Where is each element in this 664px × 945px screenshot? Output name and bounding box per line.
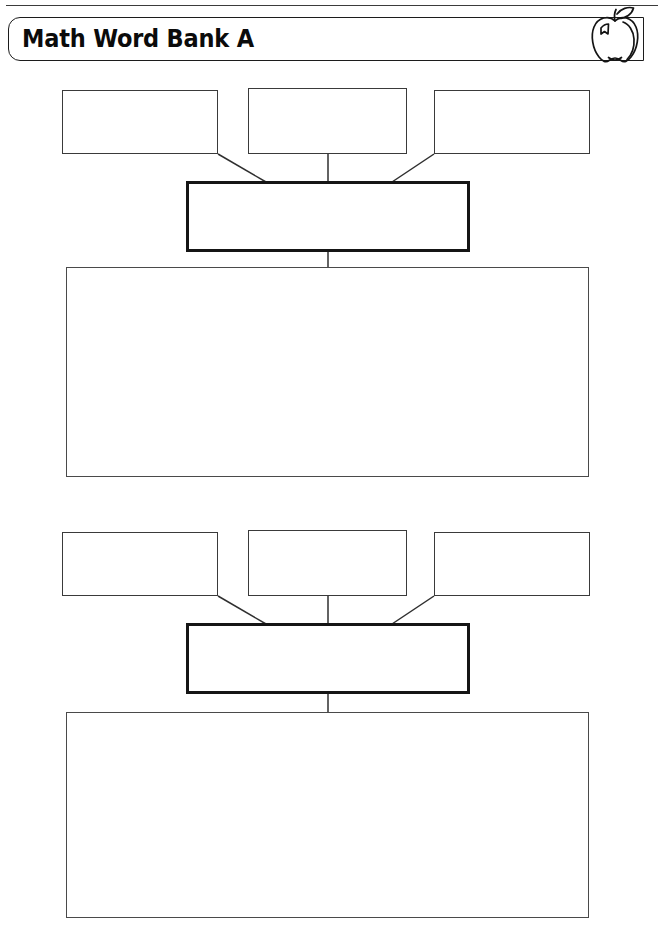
group2-main-box[interactable] <box>66 712 589 918</box>
top-rule-divider <box>6 5 658 6</box>
page-title: Math Word Bank A <box>22 18 254 60</box>
group1-top-box-1[interactable] <box>62 90 218 154</box>
group2-top-box-3[interactable] <box>434 532 590 596</box>
worksheet-page: Math Word Bank A <box>0 0 664 945</box>
group2-top-box-2[interactable] <box>248 530 407 596</box>
connector-g2-left <box>218 596 266 624</box>
connector-g1-right <box>392 154 434 182</box>
connector-g2-right <box>392 596 434 624</box>
connector-g1-left <box>218 154 266 182</box>
apple-icon <box>583 2 647 68</box>
group1-main-box[interactable] <box>66 267 589 477</box>
group1-top-box-3[interactable] <box>434 90 590 154</box>
group2-center-box[interactable] <box>186 623 470 694</box>
group2-top-box-1[interactable] <box>62 532 218 596</box>
group1-top-box-2[interactable] <box>248 88 407 154</box>
group1-center-box[interactable] <box>186 181 470 252</box>
